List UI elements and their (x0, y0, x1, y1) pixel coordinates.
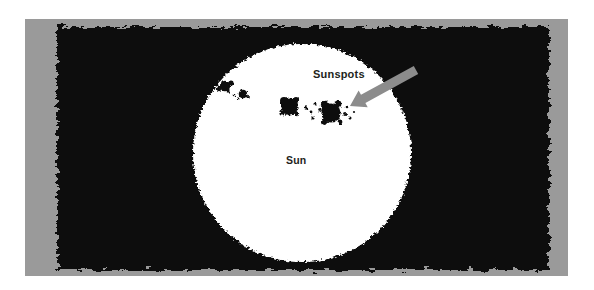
sunspots-label: Sunspots (313, 69, 365, 80)
sunspot (343, 112, 347, 116)
sunspot (335, 101, 342, 108)
sunspot (310, 111, 313, 114)
sunspot (233, 94, 236, 97)
sunspot (346, 106, 349, 109)
sunspot (237, 98, 240, 101)
sunspot (311, 116, 314, 119)
sunspot (239, 90, 248, 99)
sunspot (226, 89, 229, 92)
illustration-artwork (0, 0, 594, 290)
sunspot (338, 120, 343, 125)
sunspot (217, 87, 221, 91)
sunspot (353, 111, 355, 113)
sunspot (295, 112, 299, 116)
sunspot (293, 97, 299, 103)
sunspot (246, 95, 250, 99)
sunspot (280, 97, 288, 105)
sun-disc (193, 44, 411, 262)
sunspot (321, 101, 329, 109)
sunspot (279, 110, 284, 115)
sunspot (349, 117, 352, 120)
sunspot-illustration: Sunspots Sun (0, 0, 594, 290)
sunspot (228, 80, 233, 85)
sunspot (318, 108, 322, 112)
sunspot (314, 103, 317, 106)
sun-label: Sun (286, 155, 306, 166)
sunspot (304, 106, 308, 110)
sunspot (321, 119, 327, 125)
